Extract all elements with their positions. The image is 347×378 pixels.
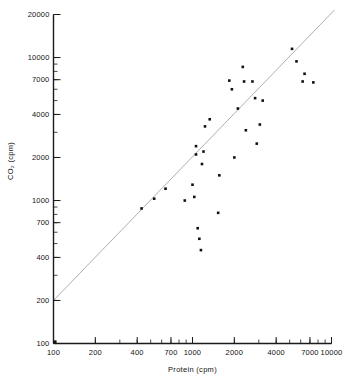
data-point (217, 212, 220, 215)
data-point (241, 66, 244, 69)
data-point (204, 125, 207, 128)
plot-canvas: 1002004007001000200040007000100001002004… (0, 0, 347, 378)
data-point (195, 153, 198, 156)
y-tick-label: 2000 (32, 153, 50, 162)
regression-line (54, 10, 335, 300)
data-point (301, 80, 304, 83)
data-point (196, 227, 199, 230)
data-point (255, 142, 258, 145)
data-point (202, 150, 205, 153)
data-point (228, 79, 231, 82)
x-tick-label: 400 (131, 348, 144, 357)
y-tick-label: 1000 (32, 196, 50, 205)
data-point (303, 72, 306, 75)
y-tick-label: 700 (36, 218, 49, 227)
x-tick-label: 100 (47, 348, 60, 357)
data-point (251, 80, 254, 83)
data-point (259, 123, 262, 126)
data-point (140, 207, 143, 210)
x-tick-label: 1000 (184, 348, 202, 357)
data-point (231, 88, 234, 91)
y-tick-label: 20000 (28, 10, 50, 19)
data-point (295, 60, 298, 63)
y-tick-label: 7000 (32, 75, 50, 84)
data-point (193, 196, 196, 199)
data-point (254, 97, 257, 100)
x-axis-title: Protein (cpm) (168, 365, 217, 374)
y-axis-title: CO₂ (cpm) (6, 142, 15, 180)
x-tick-label: 7000 (301, 348, 319, 357)
data-point (233, 156, 236, 159)
y-tick-label: 10000 (28, 53, 50, 62)
data-point (164, 187, 167, 190)
axes-layer (54, 15, 332, 344)
data-point (183, 199, 186, 202)
x-tick-label: 2000 (226, 348, 244, 357)
data-point (201, 163, 204, 166)
y-tick-label: 400 (36, 253, 49, 262)
data-point (191, 183, 194, 186)
y-tick-label: 100 (36, 339, 49, 348)
data-point (237, 107, 240, 110)
x-tick-label: 700 (164, 348, 177, 357)
data-point (312, 81, 315, 84)
data-point (291, 48, 294, 51)
tick-marks (54, 15, 332, 344)
y-tick-label: 200 (36, 296, 49, 305)
data-point (54, 340, 57, 343)
x-tick-label: 10000 (321, 348, 343, 357)
x-tick-label: 200 (89, 348, 102, 357)
data-point (243, 80, 246, 83)
data-point (195, 145, 198, 148)
data-points (54, 48, 315, 343)
data-point (153, 197, 156, 200)
data-point (218, 174, 221, 177)
data-point (198, 237, 201, 240)
data-point (245, 129, 248, 132)
x-tick-label: 4000 (267, 348, 285, 357)
scatter-plot-figure: 1002004007001000200040007000100001002004… (0, 0, 347, 378)
data-point (200, 249, 203, 252)
data-point (208, 118, 211, 121)
y-tick-label: 4000 (32, 110, 50, 119)
data-point (261, 99, 264, 102)
